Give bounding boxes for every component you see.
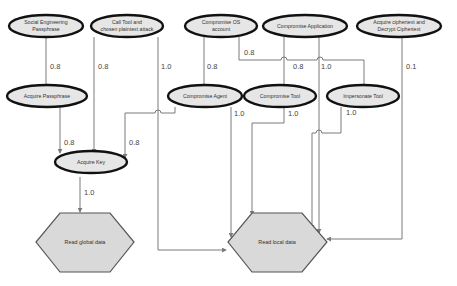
- node-label-line: Acquire Key: [77, 159, 105, 165]
- node-read-global-data[interactable]: Read global data: [36, 213, 134, 272]
- edge-label-os-to-agent: 0.8: [207, 62, 217, 71]
- edge-label-app-to-readlocal: 1.0: [321, 62, 331, 71]
- node-label-line: chosen plaintext attack: [101, 26, 154, 32]
- node-social-engineering[interactable]: Social Engineering Passphrase: [9, 15, 83, 37]
- node-label-line: Acquire Passphrase: [24, 93, 71, 99]
- node-impersonate-tool[interactable]: Impersonate Tool: [327, 85, 399, 107]
- edge-label-social-to-passphrase: 0.8: [50, 62, 60, 71]
- attack-tree-diagram: 0.8 0.8 0.8 0.8 1.0 0.8 0.8 0.8 1.0 0.1 …: [0, 0, 457, 286]
- edge-label-calltool-to-readlocal: 1.0: [161, 62, 171, 71]
- node-label-line: Read local data: [258, 239, 295, 245]
- node-label-line: Call Tool and: [112, 19, 142, 25]
- node-label-line: Compromise OS: [202, 19, 241, 25]
- edge-label-comptool-to-readlocal: 1.0: [288, 109, 298, 118]
- edge-label-acquirekey-to-readglobal: 1.0: [84, 188, 94, 197]
- node-label-line: Compromise Application: [277, 23, 333, 29]
- edge-label-calltool-to-acquirekey: 0.8: [98, 62, 108, 71]
- edge-agent-to-acquirekey: [125, 107, 175, 158]
- edge-impersonate-to-readlocal: [312, 107, 341, 229]
- edge-label-passphrase-to-acquirekey: 0.8: [64, 138, 74, 147]
- node-acquire-ciphertext[interactable]: Acquire ciphertext and Decrypt Ciphertex…: [357, 15, 441, 37]
- edge-label-agent-to-acquirekey: 0.8: [129, 138, 139, 147]
- node-compromise-tool[interactable]: Compromise Tool: [244, 85, 316, 107]
- node-label-line: Passphrase: [32, 26, 60, 32]
- node-compromise-application[interactable]: Compromise Application: [263, 15, 347, 37]
- edge-label-agent-to-readlocal: 1.0: [234, 109, 244, 118]
- edge-label-app-to-comptool: 0.8: [293, 62, 303, 71]
- node-call-tool[interactable]: Call Tool and chosen plaintext attack: [91, 15, 163, 37]
- node-compromise-agent[interactable]: Compromise Agent: [168, 85, 242, 107]
- node-label-line: Compromise Agent: [183, 93, 228, 99]
- node-label-line: Social Engineering: [24, 19, 67, 25]
- node-label-line: Impersonate Tool: [343, 93, 383, 99]
- node-label-line: Compromise Tool: [260, 93, 300, 99]
- node-label-line: account: [212, 26, 231, 32]
- node-label-line: Acquire ciphertext and: [373, 19, 425, 25]
- node-acquire-passphrase[interactable]: Acquire Passphrase: [7, 85, 87, 107]
- node-compromise-os[interactable]: Compromise OS account: [185, 15, 257, 37]
- node-label-line: Decrypt Ciphertext: [378, 26, 422, 32]
- edge-label-impersonate-to-readlocal: 1.0: [346, 108, 356, 117]
- edge-comptool-to-readlocal: [252, 107, 284, 215]
- node-label-line: Read global data: [65, 239, 106, 245]
- edge-label-os-to-impersonate: 0.8: [244, 48, 254, 57]
- edge-label-ciphertext-to-readlocal: 0.1: [406, 62, 416, 71]
- node-acquire-key[interactable]: Acquire Key: [55, 151, 127, 173]
